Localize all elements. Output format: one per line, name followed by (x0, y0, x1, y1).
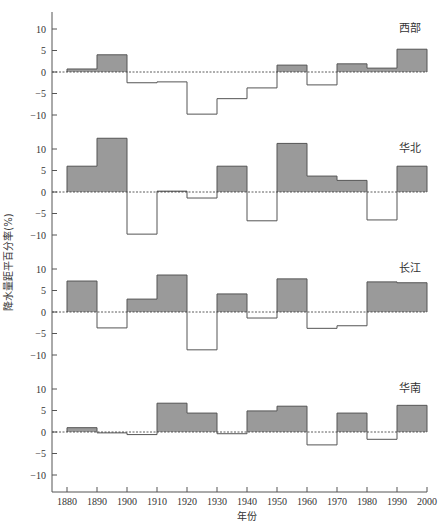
bar (247, 411, 277, 432)
x-axis-title: 年份 (237, 510, 257, 522)
y-tick-label: 0 (41, 427, 46, 438)
y-tick-label: −10 (30, 230, 46, 241)
y-tick-label: 0 (41, 67, 46, 78)
bar (367, 432, 397, 439)
y-tick-label: −5 (35, 208, 46, 219)
x-tick-label: 1930 (207, 496, 227, 507)
y-tick-label: −10 (30, 110, 46, 121)
bar (337, 64, 367, 72)
bar (367, 282, 397, 312)
bar (277, 143, 307, 192)
x-tick-label: 1990 (387, 496, 407, 507)
bar (397, 283, 427, 312)
bar (127, 72, 157, 83)
x-axis-ticks: 1880189019001910192019301940195019601970… (57, 487, 437, 507)
bar (247, 72, 277, 88)
panel-2: 1050−5−10华北 (30, 138, 427, 240)
x-tick-label: 2000 (417, 496, 437, 507)
bar (307, 72, 337, 85)
panel-3: 1050−5−10长江 (30, 262, 427, 361)
y-tick-label: 0 (41, 307, 46, 318)
bar (277, 279, 307, 312)
bar (97, 138, 127, 192)
y-tick-label: 5 (41, 45, 46, 56)
bar (67, 281, 97, 312)
bar (127, 192, 157, 234)
bar (217, 72, 247, 99)
y-tick-label: 5 (41, 165, 46, 176)
y-tick-label: 5 (41, 405, 46, 416)
panel-title: 华南 (399, 381, 421, 395)
bar (247, 192, 277, 221)
bar (127, 299, 157, 312)
y-tick-label: 10 (36, 144, 46, 155)
x-tick-label: 1880 (57, 496, 77, 507)
x-tick-label: 1980 (357, 496, 377, 507)
bar (187, 413, 217, 432)
y-tick-label: −10 (30, 350, 46, 361)
x-tick-label: 1900 (117, 496, 137, 507)
bar (187, 312, 217, 350)
bar (97, 55, 127, 72)
bar (397, 405, 427, 432)
bar (247, 312, 277, 318)
bar (307, 432, 337, 445)
bar (217, 166, 247, 192)
bar (277, 406, 307, 432)
y-axis-title: 降水量距平百分率(%) (2, 213, 14, 310)
bar (157, 275, 187, 312)
x-tick-label: 1920 (177, 496, 197, 507)
y-tick-label: 10 (36, 264, 46, 275)
y-tick-label: 0 (41, 187, 46, 198)
bar (157, 72, 187, 82)
bar (307, 176, 337, 192)
panel-title: 华北 (399, 141, 421, 155)
bar (157, 403, 187, 432)
bar (187, 72, 217, 114)
y-tick-label: −5 (35, 448, 46, 459)
bar (217, 294, 247, 312)
y-tick-label: −5 (35, 88, 46, 99)
y-tick-label: −10 (30, 470, 46, 481)
bar (307, 312, 337, 328)
x-tick-label: 1970 (327, 496, 347, 507)
bar (337, 413, 367, 432)
bar (397, 49, 427, 72)
y-tick-label: 10 (36, 384, 46, 395)
bar (67, 166, 97, 192)
x-tick-label: 1890 (87, 496, 107, 507)
y-tick-label: 10 (36, 24, 46, 35)
bar (277, 65, 307, 72)
bar (367, 192, 397, 220)
bar (397, 166, 427, 192)
bar (67, 428, 97, 432)
panel-4: 1050−5−10华南 (30, 381, 427, 481)
x-tick-label: 1940 (237, 496, 257, 507)
y-tick-label: −5 (35, 328, 46, 339)
x-tick-label: 1910 (147, 496, 167, 507)
y-tick-label: 5 (41, 285, 46, 296)
panels: 1050−5−10西部1050−5−10华北1050−5−10长江1050−5−… (30, 21, 427, 481)
bar (97, 312, 127, 328)
bar (367, 68, 397, 72)
panel-title: 长江 (399, 262, 421, 275)
x-tick-label: 1960 (297, 496, 317, 507)
panel-1: 1050−5−10西部 (30, 21, 427, 121)
precipitation-anomaly-chart: 1050−5−10西部1050−5−10华北1050−5−10长江1050−5−… (0, 0, 448, 532)
bar (337, 312, 367, 326)
bar (337, 180, 367, 192)
x-tick-label: 1950 (267, 496, 287, 507)
panel-title: 西部 (399, 21, 421, 35)
bar (187, 192, 217, 198)
